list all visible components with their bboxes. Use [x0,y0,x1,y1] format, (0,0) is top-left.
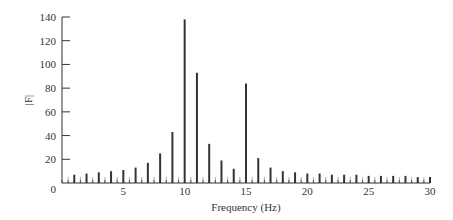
x-axis: 51015202530 [62,177,436,197]
integer-bars [74,19,430,183]
x-tick-label: 25 [363,185,375,197]
y-tick-label: 20 [45,153,57,165]
y-tick-label: 100 [40,58,57,70]
frequency-spectrum-chart: 020406080100120140 51015202530 Frequency… [0,0,453,220]
x-tick-label: 10 [179,185,191,197]
x-tick-label: 15 [241,185,253,197]
y-tick-label: 60 [45,106,57,118]
y-axis: 020406080100120140 [40,11,71,195]
y-tick-label: 0 [51,183,57,195]
x-tick-label: 5 [121,185,127,197]
x-tick-label: 20 [302,185,314,197]
x-axis-title: Frequency (Hz) [211,201,281,214]
x-tick-label: 30 [425,185,437,197]
y-axis-title: |F| [22,95,34,106]
y-tick-label: 80 [45,82,57,94]
y-tick-label: 40 [45,130,57,142]
y-tick-label: 120 [40,35,57,47]
y-tick-label: 140 [40,11,57,23]
